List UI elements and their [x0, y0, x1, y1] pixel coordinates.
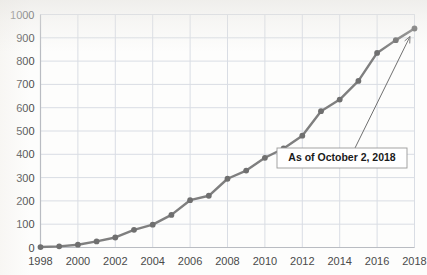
- data-point-marker: [187, 197, 193, 203]
- x-axis-tick-label: 1998: [28, 255, 52, 267]
- y-axis-tick-label: 200: [16, 195, 34, 207]
- chart-svg: 01002003004005006007008009001000 1998200…: [0, 0, 427, 275]
- y-axis-tick-label: 100: [16, 218, 34, 230]
- data-point-marker: [337, 97, 343, 103]
- annotation-label: As of October 2, 2018: [288, 151, 396, 163]
- x-axis-tick-label: 2016: [365, 255, 389, 267]
- x-axis-tick-label: 2006: [178, 255, 202, 267]
- data-point-marker: [356, 78, 362, 84]
- annotation-callout: As of October 2, 2018: [277, 36, 410, 168]
- data-point-marker: [131, 227, 137, 233]
- data-point-marker: [206, 193, 212, 199]
- y-axis-tick-label: 800: [16, 55, 34, 67]
- y-axis-tick-label: 300: [16, 172, 34, 184]
- x-axis-tick-label: 2000: [66, 255, 90, 267]
- data-point-marker: [393, 37, 399, 43]
- y-axis-tick-label: 700: [16, 78, 34, 90]
- data-point-marker: [262, 155, 268, 161]
- x-axis-tick-label: 2010: [253, 255, 277, 267]
- y-axis-tick-labels: 01002003004005006007008009001000: [10, 9, 34, 254]
- data-point-marker: [150, 222, 156, 228]
- data-point-marker: [412, 26, 418, 32]
- line-chart: 01002003004005006007008009001000 1998200…: [0, 0, 427, 275]
- y-axis-tick-label: 600: [16, 102, 34, 114]
- x-axis-tick-label: 2008: [215, 255, 239, 267]
- x-axis-tick-labels: 1998200020022004200620082010201220142016…: [28, 255, 426, 267]
- y-axis-tick-label: 500: [16, 125, 34, 137]
- data-point-marker: [112, 235, 118, 241]
- data-point-marker: [169, 212, 175, 218]
- x-axis-tick-label: 2004: [140, 255, 164, 267]
- data-point-marker: [225, 176, 231, 182]
- data-point-marker: [75, 242, 81, 248]
- x-axis-tick-label: 2014: [327, 255, 351, 267]
- y-axis-tick-label: 0: [28, 242, 34, 254]
- x-axis-tick-label: 2002: [103, 255, 127, 267]
- data-point-marker: [318, 108, 324, 114]
- gridlines: [41, 15, 415, 248]
- data-point-marker: [243, 168, 249, 174]
- data-point-marker: [299, 133, 305, 139]
- data-point-marker: [374, 50, 380, 56]
- y-axis-tick-label: 400: [16, 148, 34, 160]
- data-point-marker: [94, 239, 100, 245]
- x-axis-tick-label: 2012: [290, 255, 314, 267]
- data-point-marker: [56, 243, 62, 249]
- y-axis-tick-label: 900: [16, 32, 34, 44]
- y-axis-tick-label: 1000: [10, 9, 34, 21]
- data-point-marker: [38, 244, 44, 250]
- x-axis-tick-label: 2018: [402, 255, 426, 267]
